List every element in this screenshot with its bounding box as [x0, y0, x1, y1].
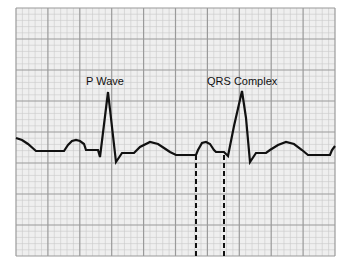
- qrs-complex-label: QRS Complex: [207, 75, 277, 87]
- p-wave-label: P Wave: [86, 75, 124, 87]
- ecg-diagram: [0, 0, 344, 269]
